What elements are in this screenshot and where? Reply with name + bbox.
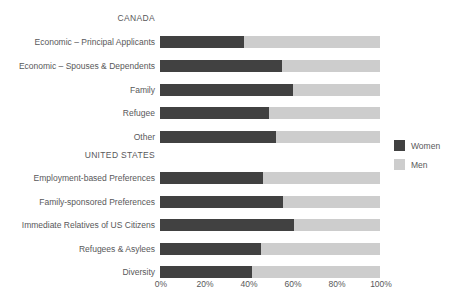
bar-segment-women xyxy=(160,172,263,184)
bar-row xyxy=(160,266,380,278)
bar-segment-men xyxy=(283,196,380,208)
bar-row xyxy=(160,219,380,231)
bar-segment-women xyxy=(160,84,293,96)
category-label: Refugee xyxy=(123,108,155,118)
x-axis-tick: 80% xyxy=(328,279,345,289)
bar-row xyxy=(160,60,380,72)
category-label: Family-sponsored Preferences xyxy=(39,197,155,207)
bar-segment-women xyxy=(160,196,283,208)
group-heading-canada: CANADA xyxy=(117,13,155,23)
x-axis-tick: 20% xyxy=(196,279,213,289)
category-label: Other xyxy=(134,132,155,142)
legend-label: Men xyxy=(411,160,428,170)
bar-segment-women xyxy=(160,243,261,255)
legend-item-men: Men xyxy=(394,155,440,174)
category-label: Refugees & Asylees xyxy=(79,244,155,254)
bar-segment-women xyxy=(160,36,244,48)
bar-row xyxy=(160,131,380,143)
bar-row xyxy=(160,196,380,208)
x-axis-tick: 0% xyxy=(155,279,167,289)
bar-segment-men xyxy=(276,131,380,143)
group-heading-united-states: UNITED STATES xyxy=(85,150,155,160)
bar-segment-men xyxy=(244,36,380,48)
bar-segment-women xyxy=(160,266,252,278)
bar-row xyxy=(160,84,380,96)
bar-row xyxy=(160,36,380,48)
bar-segment-women xyxy=(160,60,282,72)
legend-swatch-icon xyxy=(394,159,405,170)
bar-segment-women xyxy=(160,131,276,143)
legend-label: Women xyxy=(411,141,440,151)
x-axis-tick: 40% xyxy=(240,279,257,289)
category-label: Family xyxy=(130,85,155,95)
bar-segment-men xyxy=(294,219,380,231)
x-axis-tick: 100% xyxy=(370,279,392,289)
bar-segment-men xyxy=(263,172,380,184)
category-label: Employment-based Preferences xyxy=(34,173,155,183)
x-axis-tick: 60% xyxy=(284,279,301,289)
bar-row xyxy=(160,172,380,184)
stacked-bar-chart: CANADA UNITED STATES Economic – Principa… xyxy=(0,0,451,295)
bar-segment-men xyxy=(261,243,380,255)
bar-row xyxy=(160,243,380,255)
bar-row xyxy=(160,107,380,119)
bar-segment-women xyxy=(160,107,269,119)
legend-swatch-icon xyxy=(394,140,405,151)
category-label: Diversity xyxy=(122,267,155,277)
bar-segment-men xyxy=(282,60,380,72)
category-label: Economic – Spouses & Dependents xyxy=(19,61,155,71)
bar-segment-men xyxy=(293,84,380,96)
chart-legend: Women Men xyxy=(394,136,440,174)
bar-segment-women xyxy=(160,219,294,231)
bar-segment-men xyxy=(252,266,380,278)
legend-item-women: Women xyxy=(394,136,440,155)
category-label: Economic – Principal Applicants xyxy=(35,37,155,47)
category-label: Immediate Relatives of US Citizens xyxy=(22,220,155,230)
bar-segment-men xyxy=(269,107,380,119)
